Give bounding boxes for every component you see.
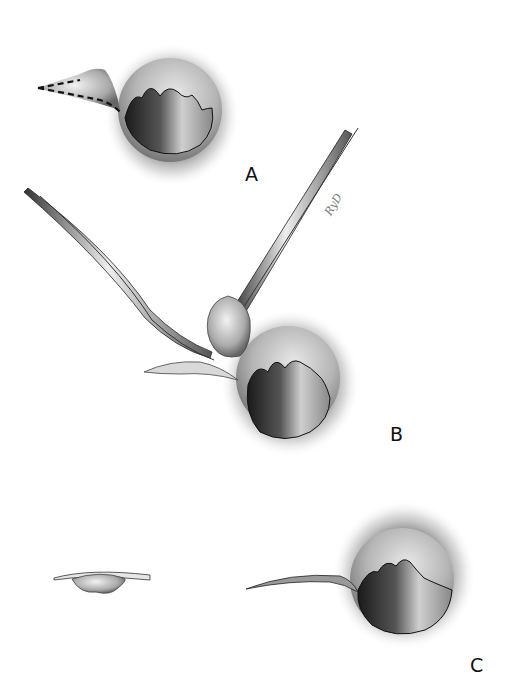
hemorrhoid-grasped <box>207 296 250 357</box>
panel-label-a: A <box>245 163 258 185</box>
forceps-jaw <box>238 128 358 316</box>
surgical-illustration <box>0 0 509 699</box>
curved-scissors <box>24 188 212 358</box>
panel-c-drawing <box>54 500 476 650</box>
excised-hemorrhoid-specimen <box>72 574 125 593</box>
forceps <box>232 130 352 318</box>
panel-a-drawing <box>38 43 240 187</box>
panel-label-b: B <box>390 423 403 445</box>
panel-label-c: C <box>470 654 483 676</box>
